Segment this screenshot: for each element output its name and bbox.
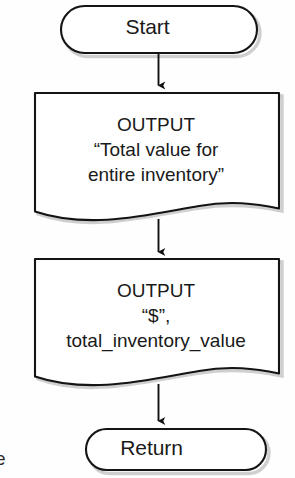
return-node-label: Return (8, 437, 295, 459)
output-total-value-line-2: “Total value for (34, 137, 278, 162)
page-margin-text-fragment: e (0, 449, 7, 471)
flowchart-canvas (0, 0, 295, 478)
shadow-layer (38, 10, 282, 474)
output-total-value-text: OUTPUT “Total value for entire inventory… (34, 112, 278, 187)
start-node-label: Start (0, 16, 295, 38)
output-dollar-value-line-3: total_inventory_value (34, 328, 278, 353)
output-dollar-value-text: OUTPUT “$”, total_inventory_value (34, 278, 278, 353)
output-total-value-line-3: entire inventory” (34, 162, 278, 187)
output-dollar-value-line-1: OUTPUT (34, 278, 278, 303)
output-dollar-value-line-2: “$”, (34, 303, 278, 328)
output-total-value-line-1: OUTPUT (34, 112, 278, 137)
